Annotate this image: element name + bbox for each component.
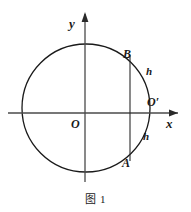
point-label-B: B: [123, 48, 131, 60]
geometry-diagram: [0, 0, 191, 212]
y-axis-label: y: [69, 17, 75, 30]
segment-label-h-upper: h: [146, 66, 152, 77]
figure-caption: 图 1: [0, 190, 191, 206]
segment-label-h-lower: h: [143, 131, 149, 142]
point-label-O-prime: O′: [147, 96, 159, 108]
point-label-A: A: [122, 157, 130, 169]
figure-container: y x O B A O′ h h 图 1: [0, 0, 191, 212]
circle-shape: [22, 44, 150, 172]
origin-label: O: [71, 118, 80, 130]
x-axis-label: x: [166, 117, 173, 130]
y-axis-arrow-icon: [82, 12, 89, 22]
